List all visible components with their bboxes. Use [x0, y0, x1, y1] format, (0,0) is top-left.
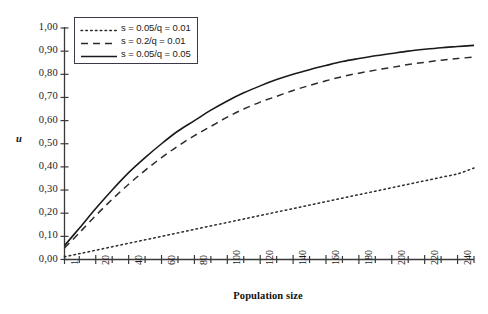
y-axis-title: u [16, 133, 22, 144]
y-tick-label: 0,10 [24, 229, 58, 240]
x-tick-label: 200 [396, 250, 407, 265]
legend-label: s = 0.05/q = 0.01 [119, 22, 191, 33]
x-tick-label: 20 [100, 255, 111, 265]
x-tick-label: 1 [69, 260, 80, 265]
chart-legend: s = 0.05/q = 0.01s = 0.2/q = 0.01s = 0.0… [74, 17, 198, 64]
series-line-1 [65, 168, 475, 257]
x-tick-label: 80 [198, 255, 209, 265]
legend-label: s = 0.2/q = 0.01 [119, 35, 185, 46]
x-tick-label: 60 [166, 255, 177, 265]
series-line-3 [65, 45, 475, 245]
chart-figure: 0,000,100,200,300,400,500,600,700,800,90… [0, 0, 488, 314]
y-tick-label: 0,00 [24, 253, 58, 264]
y-tick-label: 0,30 [24, 183, 58, 194]
x-tick-label: 120 [264, 250, 275, 265]
x-tick-label: 140 [297, 250, 308, 265]
y-tick-label: 0,40 [24, 160, 58, 171]
x-tick-label: 160 [330, 250, 341, 265]
legend-row: s = 0.05/q = 0.01 [79, 21, 191, 34]
y-tick-label: 0,80 [24, 67, 58, 78]
y-tick-label: 0,50 [24, 137, 58, 148]
legend-line-sample-1 [79, 22, 119, 34]
legend-line-sample-3 [79, 48, 119, 60]
legend-label: s = 0.05/q = 0.05 [119, 48, 191, 59]
y-tick-label: 0,70 [24, 90, 58, 101]
y-tick-label: 0,20 [24, 206, 58, 217]
y-tick-label: 0,90 [24, 44, 58, 55]
x-tick-label: 220 [429, 250, 440, 265]
y-tick-label: 1,00 [24, 21, 58, 32]
x-tick-label: 240 [462, 250, 473, 265]
legend-line-sample-2 [79, 35, 119, 47]
x-tick-label: 100 [231, 250, 242, 265]
x-axis-title: Population size [0, 290, 488, 301]
series-line-2 [65, 57, 475, 248]
y-tick-label: 0,60 [24, 114, 58, 125]
x-tick-label: 40 [133, 255, 144, 265]
legend-row: s = 0.2/q = 0.01 [79, 34, 191, 47]
legend-row: s = 0.05/q = 0.05 [79, 47, 191, 60]
data-series-layer [65, 45, 475, 256]
x-tick-label: 180 [363, 250, 374, 265]
